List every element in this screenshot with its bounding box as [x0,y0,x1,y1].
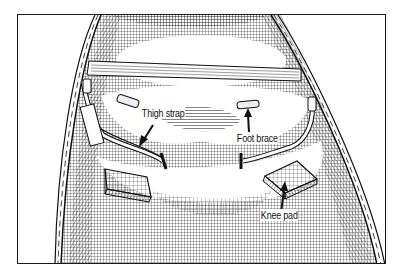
canoe-illustration [18,15,386,264]
label-foot-brace: Foot brace [236,132,279,144]
label-knee-pad: Knee pad [260,209,299,221]
illustration-frame [17,14,386,264]
label-thigh-strap: Thigh strap [141,107,185,119]
